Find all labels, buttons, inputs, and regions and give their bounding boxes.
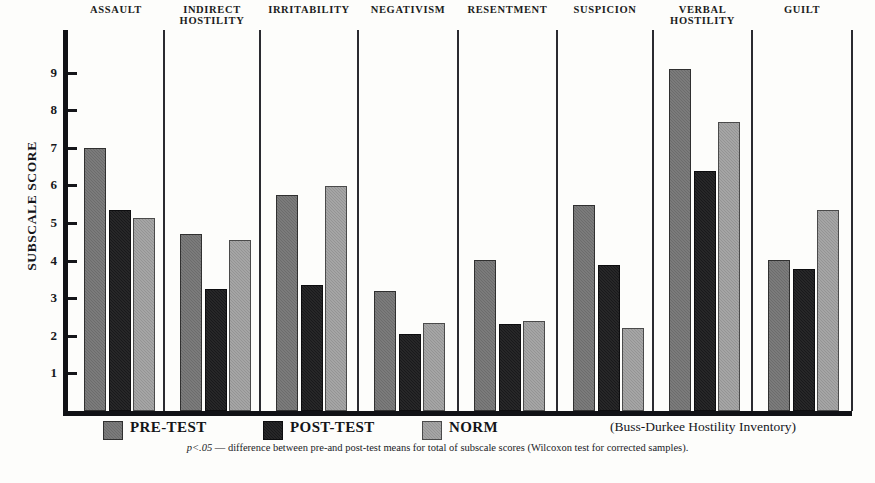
bar-post-test-verbal-hostility [694,171,716,411]
y-axis-title: SUBSCALE SCORE [24,96,40,316]
group-label-assault: ASSAULT [68,4,164,15]
bar-pre-test-indirect-hostility [180,234,202,411]
group-separator-6 [652,30,654,411]
bar-post-test-irritability [301,285,323,411]
group-label-indirect-hostility: INDIRECT HOSTILITY [164,4,260,27]
y-tick-6 [68,184,77,187]
group-separator-1 [163,30,165,411]
bar-post-test-indirect-hostility [205,289,227,411]
y-tick-label-5: 5 [33,216,57,229]
bar-norm-negativism [423,323,445,411]
y-tick-label-2: 2 [33,329,57,342]
inventory-note: (Buss-Durkee Hostility Inventory) [610,419,796,435]
legend-label-norm: NORM [449,419,498,436]
y-tick-label-9: 9 [33,66,57,79]
bar-pre-test-negativism [374,291,396,411]
y-tick-label-1: 1 [33,366,57,379]
y-tick-3 [68,297,77,300]
group-separator-8 [851,30,853,411]
bar-norm-resentment [523,321,545,411]
bar-norm-guilt [817,210,839,411]
legend-swatch-post-test [263,421,283,440]
y-tick-4 [68,260,77,263]
y-tick-8 [68,109,77,112]
bar-pre-test-irritability [276,195,298,411]
bar-post-test-guilt [793,269,815,411]
y-tick-label-4: 4 [33,254,57,267]
group-separator-2 [259,30,261,411]
y-tick-2 [68,335,77,338]
bar-post-test-assault [109,210,131,411]
group-separator-5 [556,30,558,411]
bar-norm-suspicion [622,328,644,411]
y-tick-1 [68,372,77,375]
group-label-guilt: GUILT [752,4,852,15]
footnote-text: — difference between pre-and post-test m… [212,442,688,453]
bar-norm-assault [133,218,155,411]
legend-swatch-pre-test [103,421,123,440]
bar-norm-irritability [325,186,347,411]
y-tick-label-8: 8 [33,103,57,116]
group-separator-4 [457,30,459,411]
y-tick-5 [68,222,77,225]
bar-norm-indirect-hostility [229,240,251,411]
bar-pre-test-assault [84,148,106,411]
bar-pre-test-guilt [768,260,790,411]
group-separator-7 [751,30,753,411]
bar-pre-test-verbal-hostility [669,69,691,411]
bar-pre-test-resentment [474,260,496,411]
x-axis-baseline [63,411,852,416]
bar-post-test-negativism [399,334,421,411]
group-label-suspicion: SUSPICION [557,4,653,15]
y-tick-9 [68,72,77,75]
chart-page: SUBSCALE SCORE 123456789 ASSAULTINDIRECT… [0,0,875,483]
bar-post-test-suspicion [598,265,620,411]
legend-swatch-norm [422,421,442,440]
group-label-resentment: RESENTMENT [458,4,557,15]
group-label-irritability: IRRITABILITY [260,4,358,15]
footnote-pvalue: p<.05 [187,442,212,453]
y-tick-label-7: 7 [33,141,57,154]
legend-label-post-test: POST-TEST [290,419,375,436]
group-separator-3 [357,30,359,411]
legend-label-pre-test: PRE-TEST [130,419,207,436]
bar-post-test-resentment [499,324,521,411]
footnote: p<.05 — difference between pre-and post-… [0,442,875,453]
bar-pre-test-suspicion [573,205,595,411]
y-tick-label-3: 3 [33,291,57,304]
group-label-negativism: NEGATIVISM [358,4,458,15]
group-label-verbal-hostility: VERBAL HOSTILITY [653,4,752,27]
bar-norm-verbal-hostility [718,122,740,411]
plot-area: 123456789 ASSAULTINDIRECT HOSTILITYIRRIT… [63,30,852,415]
y-tick-7 [68,147,77,150]
y-tick-label-6: 6 [33,178,57,191]
